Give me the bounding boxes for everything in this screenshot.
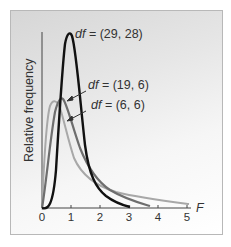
tick-label: 3	[126, 211, 132, 223]
x-axis-label: F	[196, 201, 205, 215]
y-axis-label: Relative frequency	[22, 58, 36, 162]
annotation-df-29-28: df = (29, 28)	[75, 27, 143, 41]
tick-label: 0	[39, 211, 45, 223]
curve-df-29-28	[42, 33, 130, 208]
f-distribution-chart: 0 1 2 3 4 5 F Relative frequency df = (2…	[0, 0, 231, 247]
annotation-df-19-6: df = (19, 6)	[88, 78, 149, 92]
tick-label: 5	[184, 211, 190, 223]
x-tick-labels: 0 1 2 3 4 5	[39, 211, 190, 223]
tick-label: 4	[155, 211, 162, 223]
tick-label: 2	[97, 211, 103, 223]
tick-label: 1	[68, 211, 74, 223]
annotation-df-6-6: df = (6, 6)	[91, 98, 145, 112]
